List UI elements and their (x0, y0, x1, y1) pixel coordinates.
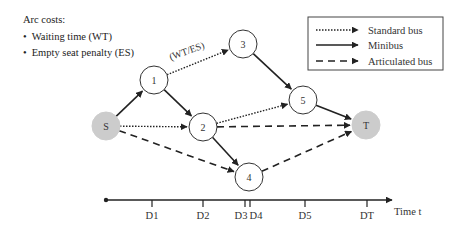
edge-S-2 (120, 126, 187, 127)
node-label: T (363, 120, 369, 131)
tick-label-D4: D4 (250, 210, 264, 221)
tick-label-D2: D2 (197, 210, 210, 221)
edge-S-4 (119, 131, 234, 172)
node-label: S (103, 121, 109, 132)
edge-5-T (316, 105, 351, 119)
tick-label-D3: D3 (235, 210, 248, 221)
node-label: 5 (301, 95, 306, 106)
edge-2-5 (217, 104, 288, 123)
legend: Standard bus Minibus Articulated bus (308, 17, 443, 70)
tick-label-D5: D5 (299, 210, 312, 221)
tick-label-D1: D1 (146, 210, 159, 221)
node-S: S (92, 112, 120, 140)
node-2: 2 (189, 113, 217, 141)
node-label: 1 (152, 75, 157, 86)
node-1: 1 (140, 66, 168, 94)
legend-label-standard-bus: Standard bus (368, 25, 423, 36)
tick-label-DT: DT (360, 210, 375, 221)
edge-2-4 (212, 137, 238, 165)
node-label: 4 (247, 172, 252, 183)
node-4: 4 (235, 163, 263, 191)
legend-label-articulated-bus: Articulated bus (368, 56, 432, 67)
edge-2-T (217, 125, 350, 127)
node-T: T (352, 111, 380, 139)
legend-label-minibus: Minibus (368, 40, 403, 51)
network-diagram: Standard bus Minibus Articulated bus S12… (0, 0, 465, 234)
edge-label-wt-es: (WT/ES) (168, 40, 207, 64)
node-3: 3 (229, 30, 257, 58)
timeline-axis-label: Time t (394, 206, 421, 217)
edge-S-1 (116, 91, 142, 116)
timeline-ticks: D1D2D3D4D5DT (146, 200, 375, 221)
node-label: 2 (201, 122, 206, 133)
edge-4-T (262, 131, 352, 171)
node-5: 5 (289, 86, 317, 114)
edge-3-5 (253, 54, 291, 90)
edge-1-2 (164, 90, 191, 116)
node-label: 3 (241, 39, 246, 50)
timeline: D1D2D3D4D5DT Time t (104, 198, 422, 221)
